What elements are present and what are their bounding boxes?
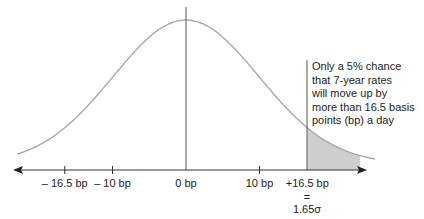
annotation-line: Only a 5% chance [312,60,424,74]
x-tick-label: – 10 bp [94,177,131,189]
equals-sign: = [304,191,310,203]
annotation-line: that 7-year rates [312,74,424,88]
annotation-text: Only a 5% chance that 7-year rates will … [312,60,424,128]
x-tick-label: 10 bp [246,177,274,189]
x-tick-label: 0 bp [175,177,196,189]
annotation-line: points (bp) a day [312,114,424,128]
sigma-label: 1.65σ [293,203,321,215]
annotation-line: more than 16.5 basis [312,101,424,115]
x-tick-label: – 16.5 bp [42,177,88,189]
annotation-line: will move up by [312,87,424,101]
x-tick-label: +16.5 bp [286,177,329,189]
